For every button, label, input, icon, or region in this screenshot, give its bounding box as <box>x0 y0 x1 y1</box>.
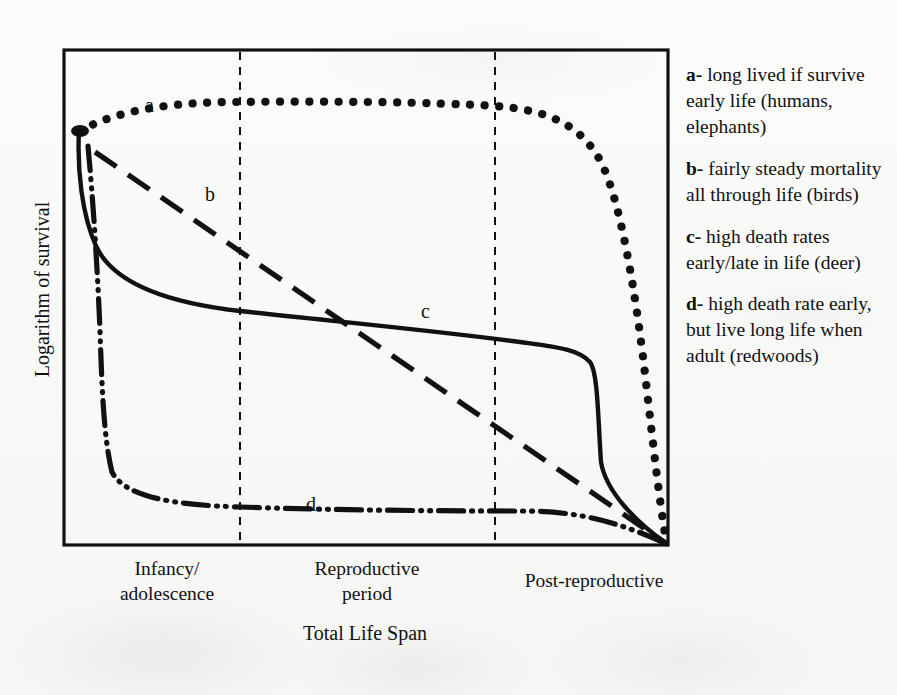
legend-text-c: high death rates early/late in life (dee… <box>686 226 861 273</box>
legend-text-b: fairly steady mortality all through life… <box>686 158 882 205</box>
legend-text-a: long lived if survive early life (humans… <box>686 64 865 137</box>
x-segment-label-post-reproductive: Post-reproductive <box>494 568 694 593</box>
x-segment-label-reproductive: Reproductiveperiod <box>292 556 442 607</box>
legend-entry-d: d- high death rate early, but live long … <box>686 291 891 369</box>
curve-b-dashed <box>95 152 667 544</box>
x-segment-label-infancy: Infancy/adolescence <box>92 556 242 607</box>
legend-entry-b: b- fairly steady mortality all through l… <box>686 156 891 208</box>
curve-a-dotted <box>80 102 667 544</box>
legend-text-d: high death rate early, but live long lif… <box>686 293 872 366</box>
curve-label-d: d <box>306 493 316 516</box>
legend-key-a: a- <box>686 64 702 85</box>
plot-frame <box>64 50 668 545</box>
curve-label-b: b <box>205 183 215 206</box>
curve-label-a: a <box>145 94 154 117</box>
legend-entry-c: c- high death rates early/late in life (… <box>686 224 891 276</box>
curve-label-c: c <box>421 300 430 323</box>
legend: a- long lived if survive early life (hum… <box>686 62 891 385</box>
legend-entry-a: a- long lived if survive early life (hum… <box>686 62 891 140</box>
legend-key-c: c- <box>686 226 701 247</box>
legend-key-b: b- <box>686 158 703 179</box>
figure-page: a b c d Logarithm of survival Infancy/ad… <box>0 0 897 695</box>
legend-key-d: d- <box>686 293 703 314</box>
x-axis-label: Total Life Span <box>255 620 475 646</box>
y-axis-label: Logarithm of survival <box>31 165 54 415</box>
